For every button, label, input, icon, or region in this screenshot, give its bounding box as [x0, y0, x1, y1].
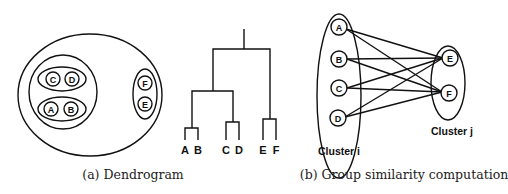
edge-b-e: [347, 58, 443, 59]
leaf-label-c: C: [222, 144, 230, 156]
nested-clusters-diagram: C D A B F E: [18, 34, 162, 156]
cluster-i-node-d: D: [330, 110, 346, 126]
node-b: B: [64, 102, 78, 116]
ef-merge-branch: [263, 119, 276, 140]
node-c: C: [46, 72, 60, 86]
leaf-label-e: E: [259, 144, 266, 156]
node-label: A: [48, 105, 55, 115]
cluster-i-node-a: A: [331, 19, 347, 35]
node-label: B: [68, 105, 75, 115]
cluster-i-label: Cluster i: [318, 145, 360, 157]
leaf-label-d: D: [235, 144, 243, 156]
cd-merge-branch: [226, 122, 239, 140]
ab-merge-branch: [185, 128, 198, 140]
node-label: E: [142, 100, 148, 110]
node-label: A: [336, 23, 343, 33]
node-label: C: [50, 75, 57, 85]
leaf-label-a: A: [181, 144, 189, 156]
node-label: F: [142, 79, 148, 89]
edge-a-e: [346, 29, 443, 58]
node-label: F: [446, 89, 452, 99]
node-f: F: [138, 76, 152, 90]
node-d: D: [65, 72, 79, 86]
node-label: D: [69, 75, 76, 85]
caption-b: (b) Group similarity computation: [300, 167, 508, 182]
node-label: B: [336, 55, 343, 65]
group-similarity-diagram: A B C D E F Cluster i Cluster j: [317, 14, 473, 178]
leaf-label-f: F: [273, 144, 280, 156]
outer-cluster-ellipse: [18, 34, 162, 156]
cluster-j-node-e: E: [442, 50, 458, 66]
caption-a: (a) Dendrogram: [82, 167, 184, 182]
leaf-label-b: B: [194, 144, 202, 156]
node-label: E: [447, 54, 453, 64]
node-label: D: [335, 114, 342, 124]
figure-canvas: C D A B F E A B C D: [0, 0, 508, 194]
cluster-i-node-b: B: [331, 51, 347, 67]
node-a: A: [44, 102, 58, 116]
root-merge-branch: [213, 49, 270, 119]
node-e: E: [138, 97, 152, 111]
node-label: C: [336, 84, 343, 94]
abcd-cluster-circle: [29, 55, 97, 129]
dendrogram-tree: A B C D E F: [181, 29, 280, 156]
cluster-j-node-f: F: [441, 85, 457, 101]
cluster-j-label: Cluster j: [431, 125, 473, 137]
edge-d-f: [345, 92, 442, 117]
cluster-i-node-c: C: [331, 80, 347, 96]
